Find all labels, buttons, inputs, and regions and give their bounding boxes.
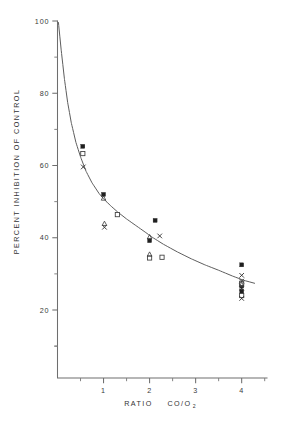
series-cross (81, 165, 244, 301)
scatter-plot: 204060801001234 RATIOCO/O2PERCENT INHIBI… (0, 0, 289, 432)
y-tick-label: 40 (40, 233, 50, 242)
series-triangle (101, 196, 244, 287)
marker-filled-square (81, 144, 85, 148)
marker-open-square (160, 255, 164, 259)
y-tick-label: 80 (40, 89, 50, 98)
tick-labels-group: 204060801001234 (35, 17, 244, 395)
marker-filled-square (153, 218, 157, 222)
x-axis-title-ratio: RATIO (124, 399, 153, 408)
marker-open-square (115, 213, 119, 217)
y-tick-label: 60 (40, 161, 50, 170)
fit-curve (58, 22, 254, 283)
axis-frame (58, 21, 268, 378)
y-axis-title: PERCENT INHIBITION OF CONTROL (12, 89, 21, 255)
marker-open-square (81, 151, 85, 155)
marker-filled-square (148, 239, 152, 243)
x-tick-label: 3 (193, 386, 198, 395)
tick-marks-group (52, 21, 264, 383)
marker-cross (239, 273, 244, 278)
marker-filled-square (240, 263, 244, 267)
x-tick-label: 1 (101, 386, 106, 395)
axes-group (58, 21, 268, 378)
series-open-square (81, 151, 244, 297)
x-tick-label: 2 (147, 386, 152, 395)
y-tick-label: 20 (40, 306, 50, 315)
x-axis-title-formula-subscript: 2 (193, 403, 196, 409)
x-tick-label: 4 (239, 386, 244, 395)
fit-curve-group (58, 22, 254, 283)
marker-triangle (102, 221, 107, 225)
x-axis-title-formula: CO/O (167, 399, 191, 408)
axis-titles-group: RATIOCO/O2PERCENT INHIBITION OF CONTROL (12, 89, 196, 410)
marker-cross (157, 234, 162, 239)
data-markers-group (81, 144, 244, 300)
figure-container: 204060801001234 RATIOCO/O2PERCENT INHIBI… (0, 0, 289, 432)
y-tick-label: 100 (35, 17, 50, 26)
